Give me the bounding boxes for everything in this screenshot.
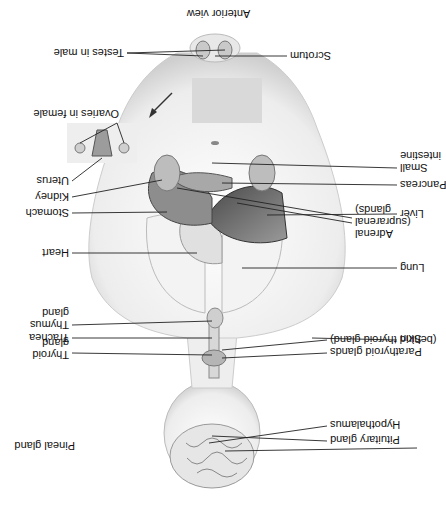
- kidney-left: [249, 155, 275, 191]
- label-pancreas: Pancreas: [400, 179, 446, 191]
- label-ovaries-in-female: Ovaries in female: [33, 108, 119, 120]
- label-trachea: Trachea: [29, 332, 69, 344]
- label-small-intestine: Small intestine: [400, 150, 441, 174]
- diagram-title: Anterior view: [0, 8, 437, 20]
- thymus: [207, 308, 223, 328]
- label-pituitary-gland: Pituitary gland: [330, 434, 400, 446]
- label-pineal-gland: Pineal gland: [14, 440, 75, 452]
- navel: [211, 141, 219, 145]
- label-skin: Skin: [400, 333, 421, 345]
- label-thymus-gland: Thymus gland: [30, 307, 69, 331]
- label-hypothalamus: Hypothalamus: [330, 419, 400, 431]
- label-uterus: Uterus: [37, 175, 69, 187]
- label-liver: Liver: [400, 208, 424, 220]
- brain: [170, 424, 254, 488]
- kidney-right: [154, 155, 180, 191]
- label-stomach: Stomach: [26, 207, 69, 219]
- label-scrotum: Scrotum: [290, 50, 331, 62]
- label-kidney: Kidney: [35, 191, 69, 203]
- label-lung: Lung: [400, 262, 424, 274]
- testis-right: [196, 41, 210, 59]
- label-testes-in-male: Testes in male: [54, 47, 124, 59]
- ovary-left: [119, 143, 129, 153]
- pelvic-region: [192, 78, 262, 123]
- label-heart: Heart: [42, 247, 69, 259]
- ovary-right: [75, 143, 85, 153]
